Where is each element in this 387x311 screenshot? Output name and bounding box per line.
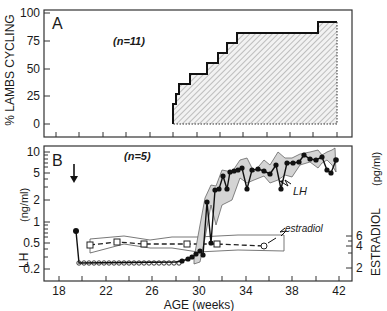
lh-annotation: LH [280,180,307,197]
panel-a: 100 75 50 25 0 A (n=11) % LAMBS CYCLING [3,6,352,137]
panel-b-rtick-4: 4 [356,239,363,253]
panel-b-ytick-0-5: 0.5 [23,236,40,250]
panel-a-ytick-100: 100 [20,6,40,20]
panel-b: 10 5 2 1 0.5 0.2 6 4 2 [17,145,383,311]
figure: 100 75 50 25 0 A (n=11) % LAMBS CYCLING [0,0,387,311]
estradiol-label: estradiol [285,223,324,234]
panel-a-x-ticks [56,132,337,137]
panel-a-letter: A [52,15,63,32]
xtick-26: 26 [145,284,159,298]
panel-b-letter: B [52,152,63,169]
panel-a-y-ticks [44,13,50,124]
panel-b-ytick-5: 5 [33,166,40,180]
x-axis-label: AGE (weeks) [164,298,235,311]
xtick-42: 42 [332,284,346,298]
xtick-18: 18 [52,284,66,298]
panel-a-ylabel: % LAMBS CYCLING [3,14,17,125]
lh-axis-unit: (ng/ml) [18,188,30,222]
xtick-38: 38 [285,284,299,298]
xtick-30: 30 [192,284,206,298]
panel-a-ytick-75: 75 [27,34,41,48]
lh-axis-label: LH [17,253,31,268]
panel-b-ytick-2: 2 [33,193,40,207]
panel-b-left-ticks [44,152,50,269]
estradiol-axis-unit: (pg/ml) [370,152,382,186]
estradiol-axis-label: ESTRADIOL [369,208,383,276]
xtick-34: 34 [239,284,253,298]
panel-a-ytick-25: 25 [27,89,41,103]
panel-b-rtick-2: 2 [356,261,363,275]
panel-a-ytick-50: 50 [27,62,41,76]
panel-b-n-label: (n=5) [124,150,151,162]
treatment-arrow-icon [70,164,78,183]
panel-a-n-label: (n=11) [113,35,145,47]
estradiol-markers [87,239,267,249]
panel-b-ytick-1: 1 [33,215,40,229]
lh-line [76,155,336,263]
estradiol-annotation: estradiol [268,223,324,243]
xtick-22: 22 [99,284,113,298]
panel-b-x-ticks [59,276,339,281]
panel-b-right-ticks [346,236,352,268]
panel-b-ytick-10: 10 [27,145,41,159]
panel-a-ytick-0: 0 [33,117,40,131]
lh-label: LH [293,185,307,197]
